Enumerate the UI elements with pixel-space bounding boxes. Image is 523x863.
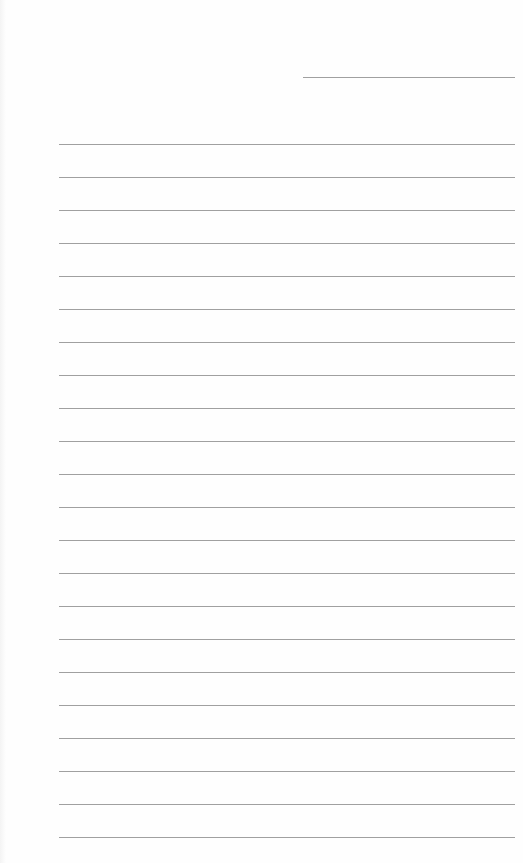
ruled-lines bbox=[59, 0, 515, 863]
ruled-line bbox=[59, 342, 515, 343]
ruled-line bbox=[59, 177, 515, 178]
ruled-line bbox=[59, 408, 515, 409]
ruled-line bbox=[59, 705, 515, 706]
ruled-line bbox=[59, 639, 515, 640]
ruled-line bbox=[59, 210, 515, 211]
ruled-line bbox=[59, 771, 515, 772]
ruled-line bbox=[59, 672, 515, 673]
ruled-line bbox=[59, 507, 515, 508]
lined-paper-page bbox=[0, 0, 523, 863]
ruled-line bbox=[59, 243, 515, 244]
ruled-line bbox=[59, 738, 515, 739]
ruled-line bbox=[59, 474, 515, 475]
ruled-line bbox=[59, 276, 515, 277]
ruled-line bbox=[59, 441, 515, 442]
ruled-line bbox=[59, 540, 515, 541]
page-edge-shadow bbox=[0, 0, 6, 863]
ruled-line bbox=[59, 375, 515, 376]
ruled-line bbox=[59, 309, 515, 310]
ruled-line bbox=[59, 573, 515, 574]
ruled-line bbox=[59, 804, 515, 805]
ruled-line bbox=[59, 606, 515, 607]
ruled-line bbox=[59, 144, 515, 145]
ruled-line bbox=[59, 837, 515, 838]
